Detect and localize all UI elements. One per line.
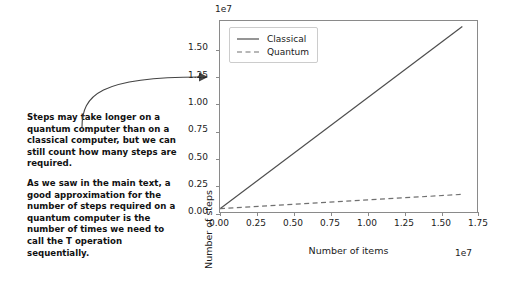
legend-label: Quantum bbox=[267, 47, 309, 57]
legend-swatch-dashed-icon bbox=[236, 47, 260, 57]
y-ticklabel: 1.00 bbox=[188, 97, 208, 107]
y-axis-title: Number of steps bbox=[203, 160, 214, 282]
chart-legend: Classical Quantum bbox=[229, 27, 318, 63]
y-ticklabel: 1.50 bbox=[188, 42, 208, 52]
series-line-quantum bbox=[220, 194, 462, 208]
x-ticklabel: 0.25 bbox=[246, 218, 266, 228]
x-ticklabel: 1.50 bbox=[431, 218, 451, 228]
legend-swatch-solid-icon bbox=[236, 34, 260, 44]
x-ticklabel: 1.00 bbox=[357, 218, 377, 228]
y-ticklabel: 0.75 bbox=[188, 124, 208, 134]
y-axis-ticklabels: 0.00 0.25 0.50 0.75 1.00 1.25 1.50 bbox=[0, 20, 214, 213]
x-tickmark bbox=[257, 212, 258, 216]
x-axis-title: Number of items bbox=[219, 245, 478, 256]
x-tickmark bbox=[220, 212, 221, 216]
x-ticklabel: 1.25 bbox=[394, 218, 414, 228]
figure-root: Steps may take longer on a quantum compu… bbox=[0, 0, 511, 282]
y-ticklabel: 1.25 bbox=[188, 70, 208, 80]
legend-item-quantum: Quantum bbox=[236, 45, 309, 58]
plot-area: Classical Quantum bbox=[219, 20, 478, 213]
x-tickmark bbox=[442, 212, 443, 216]
x-tickmark bbox=[405, 212, 406, 216]
legend-item-classical: Classical bbox=[236, 32, 309, 45]
x-tickmark bbox=[294, 212, 295, 216]
x-tickmark bbox=[331, 212, 332, 216]
legend-label: Classical bbox=[267, 34, 306, 44]
x-axis-ticklabels: 0.00 0.25 0.50 0.75 1.00 1.25 1.50 1.75 bbox=[219, 214, 478, 234]
x-tickmark bbox=[368, 212, 369, 216]
y-axis-offset-label: 1e7 bbox=[215, 4, 232, 14]
x-tickmark bbox=[478, 212, 479, 216]
x-ticklabel: 0.75 bbox=[320, 218, 340, 228]
chart-figure: 1e7 1e7 0.00 0.25 0.50 0.75 1.00 1.25 1.… bbox=[0, 0, 511, 282]
x-ticklabel: 1.75 bbox=[468, 218, 488, 228]
x-ticklabel: 0.50 bbox=[283, 218, 303, 228]
